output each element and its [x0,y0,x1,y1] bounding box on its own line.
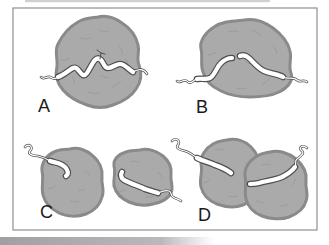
scan-artifact-bottom [0,237,215,245]
fiber-tail-core [172,139,197,158]
panel-d: D [172,139,307,225]
panel-b: B [177,19,307,117]
scan-artifact-top [25,0,270,2]
panel-a: A [38,16,147,116]
figure-canvas: A B [0,0,329,245]
panel-c: C [25,145,181,222]
figure-page: A B [0,0,329,245]
panel-a-label: A [38,96,50,116]
panel-b-label: B [196,97,208,117]
panel-d-label: D [198,205,211,225]
panel-c-label: C [40,202,53,222]
fiber-tail-core [25,145,50,161]
